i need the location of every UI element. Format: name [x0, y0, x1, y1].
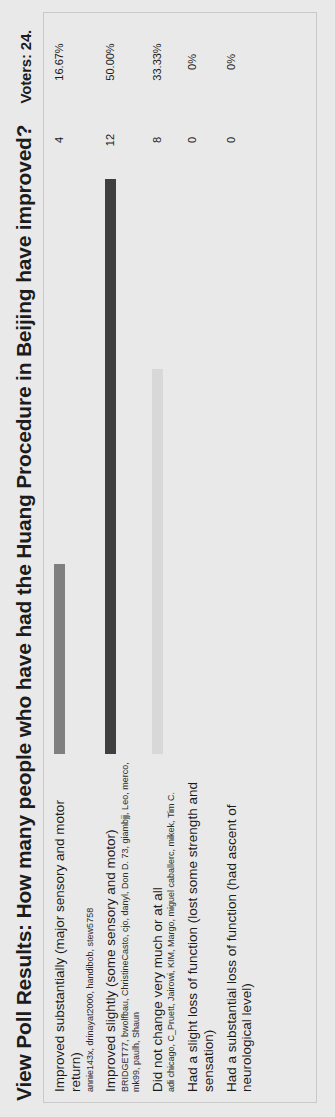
poll-option-percent: 16.67% — [52, 23, 65, 101]
poll-option-bar-cell — [150, 179, 163, 754]
poll-option-vote-count: 8 — [150, 101, 163, 179]
poll-option-bar-cell — [224, 179, 226, 754]
poll-option-bar-cell — [185, 179, 187, 754]
voters-count-label: Voters: 24. — [17, 12, 34, 103]
poll-option-row: Had a substantial loss of function (had … — [224, 23, 256, 1092]
poll-option-vote-count: 4 — [52, 101, 65, 179]
poll-option-row: Did not change very much or at alladi ch… — [150, 23, 178, 1092]
poll-option-text-cell: Had a substantial loss of function (had … — [224, 754, 256, 1092]
poll-option-text-cell: Had a slight loss of function (lost some… — [185, 754, 217, 1092]
poll-option-row: Improved substantially (major sensory an… — [52, 23, 96, 1092]
poll-option-bar — [54, 564, 65, 754]
poll-option-label: Had a slight loss of function (lost some… — [185, 762, 217, 1092]
poll-option-vote-count: 0 — [185, 101, 198, 179]
poll-option-percent: 33.33% — [150, 23, 163, 101]
poll-option-label: Had a substantial loss of function (had … — [224, 762, 256, 1092]
poll-option-bar-cell — [103, 179, 116, 754]
poll-option-bar-cell — [52, 179, 65, 754]
poll-option-list: Improved substantially (major sensory an… — [52, 23, 308, 1092]
poll-option-label: Did not change very much or at all — [150, 762, 166, 1092]
poll-option-voter-names: adi chicago, C_Pruett, Jairowi, KIM, Mar… — [166, 762, 177, 1092]
poll-option-vote-count: 12 — [103, 101, 116, 179]
poll-results-box: Improved substantially (major sensory an… — [43, 12, 317, 1103]
poll-option-row: Had a slight loss of function (lost some… — [185, 23, 217, 1092]
poll-option-percent: 50.00% — [103, 23, 116, 101]
poll-option-row: Improved slightly (some sensory and moto… — [103, 23, 142, 1092]
poll-option-label: Improved substantially (major sensory an… — [52, 762, 84, 1092]
rotated-page-wrapper: View Poll Results: How many people who h… — [0, 0, 335, 1117]
poll-option-text-cell: Improved substantially (major sensory an… — [52, 754, 96, 1092]
poll-option-text-cell: Did not change very much or at alladi ch… — [150, 754, 178, 1092]
page-title: View Poll Results: How many people who h… — [12, 12, 36, 1101]
poll-option-bar — [105, 179, 116, 754]
poll-option-voter-names: annie143x, drinayat2000, handibob, stew5… — [85, 762, 96, 1092]
poll-option-voter-names: BRIDGET77, bwolfbau, ChristineCasto, cjo… — [120, 762, 143, 1092]
poll-option-label: Improved slightly (some sensory and moto… — [103, 762, 119, 1092]
poll-option-bar — [152, 369, 163, 754]
poll-option-percent: 0% — [224, 23, 237, 101]
poll-option-text-cell: Improved slightly (some sensory and moto… — [103, 754, 142, 1092]
poll-option-percent: 0% — [185, 23, 198, 101]
poll-option-vote-count: 0 — [224, 101, 237, 179]
poll-results-page: View Poll Results: How many people who h… — [0, 0, 335, 1117]
poll-question: View Poll Results: How many people who h… — [12, 125, 36, 1101]
